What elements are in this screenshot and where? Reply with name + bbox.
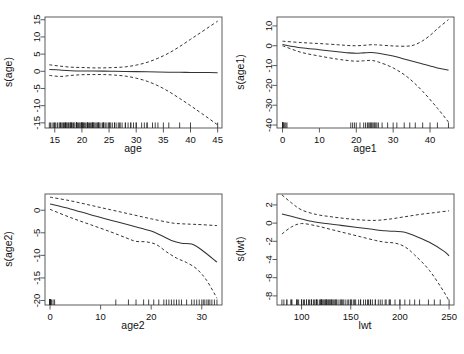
- gam-smooth-panel-figure: 15202530354045-15-10-5051015ages(age)010…: [0, 0, 464, 354]
- chart-panel-lwt: 100150200250-8-6-4-202lwts(lwt): [0, 0, 464, 354]
- y-tick-label: 0: [263, 220, 274, 225]
- series-upper: [282, 195, 449, 221]
- series-fit: [282, 214, 449, 256]
- y-tick-label: -6: [263, 273, 274, 281]
- x-tick-label: 100: [294, 311, 310, 322]
- x-tick-label: 150: [343, 311, 359, 322]
- x-tick-label: 250: [441, 311, 457, 322]
- y-tick-label: 2: [263, 202, 274, 207]
- plot-frame: [277, 194, 454, 305]
- y-tick-label: -4: [263, 255, 274, 263]
- y-tick-label: -2: [263, 237, 274, 245]
- y-axis-title: s(lwt): [234, 236, 246, 261]
- y-tick-label: -8: [263, 292, 274, 300]
- x-axis-title: lwt: [359, 319, 372, 331]
- x-tick-label: 200: [392, 311, 408, 322]
- series-lower: [282, 224, 449, 302]
